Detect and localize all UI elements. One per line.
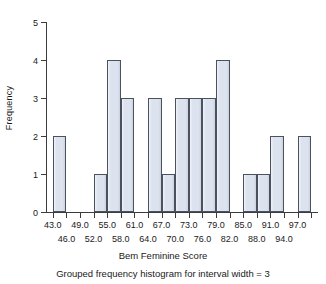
- x-axis-title: Bem Feminine Score: [0, 250, 326, 261]
- histogram-bar: [121, 98, 135, 212]
- histogram-bar: [298, 136, 312, 212]
- y-axis-tick-label: 3: [33, 94, 38, 104]
- x-axis-tick: [298, 213, 299, 218]
- x-axis-tick-label: 70.0: [166, 234, 184, 244]
- y-axis-tick-label: 5: [33, 18, 38, 28]
- x-axis-tick: [94, 213, 95, 218]
- histogram-bar: [162, 174, 176, 212]
- x-axis-tick-label: 67.0: [153, 220, 171, 230]
- y-axis-tick: 0: [41, 212, 46, 213]
- x-axis-tick-label: 64.0: [139, 234, 157, 244]
- x-axis-tick: [80, 213, 81, 218]
- histogram-bar: [216, 60, 230, 212]
- x-axis-tick: [284, 213, 285, 218]
- y-axis-tick: 2: [41, 136, 46, 137]
- histogram-bar: [243, 174, 257, 212]
- y-axis-tick-label: 0: [33, 208, 38, 218]
- x-axis-tick: [162, 213, 163, 218]
- x-axis-tick: [53, 213, 54, 218]
- x-axis-tick-label: 46.0: [58, 234, 76, 244]
- x-axis-tick: [216, 213, 217, 218]
- plot-area: 012345: [46, 22, 318, 212]
- x-axis-tick-label: 55.0: [98, 220, 116, 230]
- x-axis-tick-label: 85.0: [234, 220, 252, 230]
- x-axis-tick: [257, 213, 258, 218]
- y-axis-title-text: Frequency: [4, 85, 14, 129]
- y-axis-tick-label: 4: [33, 56, 38, 66]
- histogram-bar: [175, 98, 189, 212]
- y-axis-tick: 5: [41, 22, 46, 23]
- x-axis-tick-label: 43.0: [44, 220, 62, 230]
- histogram-bar: [189, 98, 203, 212]
- x-axis-tick: [107, 213, 108, 218]
- x-axis-line: [46, 212, 318, 213]
- x-axis-tick: [148, 213, 149, 218]
- x-axis-tick: [202, 213, 203, 218]
- x-axis-tick-label: 61.0: [126, 220, 144, 230]
- x-axis-tick: [175, 213, 176, 218]
- x-axis-tick: [134, 213, 135, 218]
- y-axis-title: Frequency: [2, 0, 16, 215]
- y-axis-line: [46, 22, 47, 212]
- figure-caption: Grouped frequency histogram for interval…: [0, 268, 326, 279]
- histogram-figure: Frequency 012345 43.049.055.061.067.073.…: [0, 0, 326, 284]
- x-axis-tick: [189, 213, 190, 218]
- x-axis-tick-label: 73.0: [180, 220, 198, 230]
- x-axis-tick-label: 82.0: [221, 234, 239, 244]
- histogram-bar: [257, 174, 271, 212]
- y-axis-tick-label: 1: [33, 170, 38, 180]
- x-axis-tick-label: 49.0: [71, 220, 89, 230]
- x-axis-tick: [270, 213, 271, 218]
- x-axis-tick-label: 91.0: [262, 220, 280, 230]
- histogram-bar: [270, 136, 284, 212]
- y-axis-tick: 4: [41, 60, 46, 61]
- histogram-bar: [107, 60, 121, 212]
- x-axis-tick: [121, 213, 122, 218]
- x-axis-tick: [66, 213, 67, 218]
- y-axis-tick: 3: [41, 98, 46, 99]
- x-axis-tick-label: 94.0: [275, 234, 293, 244]
- histogram-bar: [94, 174, 108, 212]
- x-axis-tick-label: 88.0: [248, 234, 266, 244]
- x-axis-tick-label: 58.0: [112, 234, 130, 244]
- y-axis-tick-label: 2: [33, 132, 38, 142]
- x-axis-tick-label: 76.0: [194, 234, 212, 244]
- x-axis-tick: [243, 213, 244, 218]
- histogram-bar: [202, 98, 216, 212]
- x-axis-tick-label: 52.0: [85, 234, 103, 244]
- y-axis-tick: 1: [41, 174, 46, 175]
- x-axis-tick: [230, 213, 231, 218]
- x-axis-tick-label: 79.0: [207, 220, 225, 230]
- x-axis-tick-label: 97.0: [289, 220, 307, 230]
- histogram-bar: [148, 98, 162, 212]
- x-axis-tick: [311, 213, 312, 218]
- histogram-bar: [53, 136, 67, 212]
